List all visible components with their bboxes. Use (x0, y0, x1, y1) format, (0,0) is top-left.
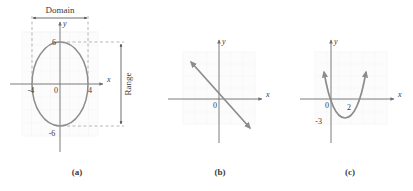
panel-c: 0 2 -3 x y (c) (300, 37, 402, 177)
panel-c-caption: (c) (345, 167, 355, 177)
panel-b-y-axis-label: y (221, 37, 226, 46)
panel-a-xtick-neg4: -4 (28, 86, 35, 95)
figure-svg: Domain Range -4 4 0 6 -6 x y (a) (0, 0, 413, 191)
panel-a-y-axis-label: y (62, 19, 67, 28)
panel-a-domain-label: Domain (46, 5, 75, 15)
panel-a-caption: (a) (72, 167, 83, 177)
figure-container: Domain Range -4 4 0 6 -6 x y (a) (0, 0, 413, 191)
panel-b-caption: (b) (215, 167, 226, 177)
panel-c-origin-label: 0 (325, 101, 329, 110)
panel-a-xtick-4: 4 (88, 86, 92, 95)
panel-c-ytick-neg3: -3 (315, 117, 322, 126)
panel-c-grid (315, 52, 387, 124)
panel-a: Domain Range -4 4 0 6 -6 x y (a) (10, 5, 133, 177)
panel-c-x-axis-label: x (397, 90, 402, 99)
panel-a-origin-label: 0 (54, 86, 58, 95)
panel-c-y-axis-label: y (333, 37, 338, 46)
panel-c-xtick-2: 2 (347, 103, 351, 112)
panel-b-x-axis-label: x (265, 90, 270, 99)
panel-a-range-label: Range (123, 73, 133, 96)
panel-b: 0 x y (b) (168, 37, 270, 177)
panel-a-ytick-neg6: -6 (49, 129, 56, 138)
panel-a-ytick-6: 6 (52, 38, 56, 47)
panel-b-origin-label: 0 (213, 101, 217, 110)
panel-a-x-axis-label: x (106, 75, 111, 84)
